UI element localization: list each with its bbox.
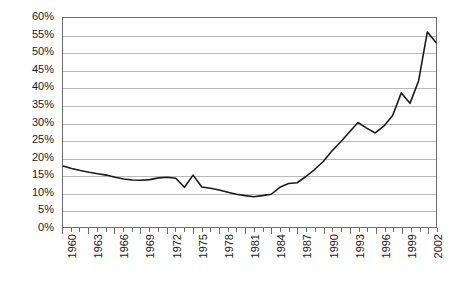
x-tick: [236, 228, 237, 232]
y-tick-label: 45%: [32, 64, 54, 75]
x-tick: [367, 228, 368, 232]
x-tick: [411, 228, 412, 232]
y-tick-label: 55%: [32, 29, 54, 40]
y-tick-label: 50%: [32, 46, 54, 57]
x-tick-label: 1972: [172, 234, 183, 258]
x-tick: [393, 228, 394, 232]
y-tick-label: 15%: [32, 169, 54, 180]
x-axis: 1960196319661969197219751978198119841987…: [62, 234, 437, 280]
x-tick: [132, 228, 133, 232]
line-chart: 0%5%10%15%20%25%30%35%40%45%50%55%60% 19…: [0, 0, 454, 281]
x-tick: [263, 228, 264, 232]
y-tick-label: 5%: [38, 204, 54, 215]
x-tick: [97, 228, 98, 232]
plot-area: [62, 17, 437, 228]
y-tick-label: 30%: [32, 117, 54, 128]
x-tick: [202, 228, 203, 232]
y-tick-label: 25%: [32, 134, 54, 145]
y-tick-label: 20%: [32, 152, 54, 163]
x-tick: [254, 228, 255, 232]
y-axis: 0%5%10%15%20%25%30%35%40%45%50%55%60%: [0, 0, 58, 246]
x-tick: [332, 228, 333, 232]
y-tick-label: 0%: [38, 222, 54, 233]
x-tick: [341, 228, 342, 232]
x-tick-label: 2002: [433, 234, 444, 258]
x-tick: [359, 228, 360, 232]
y-tick-label: 35%: [32, 99, 54, 110]
x-tick: [385, 228, 386, 232]
x-tick-label: 1978: [224, 234, 235, 258]
y-tick-label: 40%: [32, 81, 54, 92]
x-tick-label: 1966: [119, 234, 130, 258]
x-tick: [175, 228, 176, 232]
x-tick: [289, 228, 290, 232]
y-tick-label: 10%: [32, 187, 54, 198]
x-tick-label: 1996: [381, 234, 392, 258]
x-tick-label: 1984: [276, 234, 287, 258]
x-tick: [437, 228, 438, 232]
x-tick-label: 1999: [407, 234, 418, 258]
x-tick: [280, 228, 281, 232]
data-series: [63, 18, 436, 227]
x-tick-label: 1960: [67, 234, 78, 258]
x-tick: [315, 228, 316, 232]
x-tick-label: 1963: [93, 234, 104, 258]
x-tick-label: 1990: [329, 234, 340, 258]
x-tick: [123, 228, 124, 232]
x-tick: [158, 228, 159, 232]
x-tick-label: 1969: [145, 234, 156, 258]
x-tick: [228, 228, 229, 232]
x-tick: [71, 228, 72, 232]
x-tick: [106, 228, 107, 232]
x-tick-label: 1981: [250, 234, 261, 258]
x-tick: [79, 228, 80, 232]
x-tick: [210, 228, 211, 232]
x-tick: [149, 228, 150, 232]
x-tick-label: 1975: [198, 234, 209, 258]
x-tick-label: 1993: [355, 234, 366, 258]
y-tick-label: 60%: [32, 11, 54, 22]
x-tick: [306, 228, 307, 232]
x-tick-label: 1987: [302, 234, 313, 258]
x-tick: [420, 228, 421, 232]
series-line: [63, 32, 436, 197]
x-tick: [184, 228, 185, 232]
